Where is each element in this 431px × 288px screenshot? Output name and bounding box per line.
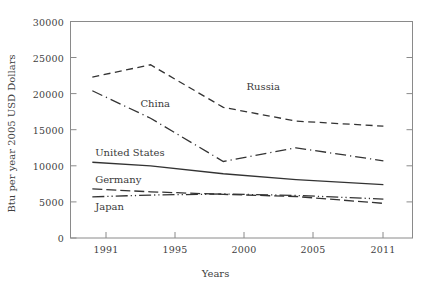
- y-tick-label-15000: 15000: [28, 124, 64, 135]
- series-label-germany: Germany: [95, 174, 141, 185]
- y-tick-label-10000: 10000: [28, 160, 64, 171]
- y-tick-label-30000: 30000: [28, 16, 64, 27]
- chart-plot-area: [0, 0, 431, 288]
- x-tick-label-1995: 1995: [163, 244, 188, 255]
- x-tick-label-2000: 2000: [232, 244, 257, 255]
- series-line-japan: [92, 194, 383, 199]
- y-axis-title: Btu per year 2005 USD Dollars: [6, 54, 17, 214]
- series-label-russia: Russia: [247, 81, 280, 92]
- chart-figure: 0 5000 10000 15000 20000 25000 30000 199…: [0, 0, 431, 288]
- x-tick-label-1991: 1991: [94, 244, 119, 255]
- series-line-russia: [92, 65, 383, 126]
- y-axis-ticks: [71, 22, 77, 239]
- series-label-japan: Japan: [95, 201, 124, 212]
- y-tick-label-20000: 20000: [28, 88, 64, 99]
- x-tick-label-2011: 2011: [371, 244, 396, 255]
- y-tick-label-5000: 5000: [28, 196, 64, 207]
- x-axis-title: Years: [0, 268, 431, 279]
- series-label-united-states: United States: [95, 147, 164, 158]
- x-tick-label-2005: 2005: [301, 244, 326, 255]
- y-axis-ticks-right: [407, 58, 413, 202]
- y-tick-label-25000: 25000: [28, 52, 64, 63]
- x-axis-ticks: [106, 232, 383, 238]
- series-label-china: China: [140, 98, 170, 109]
- y-tick-label-0: 0: [28, 233, 64, 244]
